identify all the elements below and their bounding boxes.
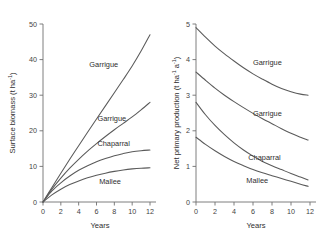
surface-biomass-plot: 01020304050024681012 GarrigueGarrigueCha… bbox=[0, 0, 166, 249]
curve-label-chaparral: Chaparral bbox=[97, 139, 130, 148]
curve-label-mallee: Mallee bbox=[99, 177, 121, 186]
tick-marks-left: 01020304050024681012 bbox=[29, 20, 154, 216]
chart-panel-surface-biomass: 01020304050024681012 GarrigueGarrigueCha… bbox=[0, 0, 166, 249]
y-tick-label: 5 bbox=[186, 20, 190, 29]
y-tick-label: 0 bbox=[33, 198, 37, 207]
y-tick-label: 20 bbox=[29, 126, 37, 135]
y-axis-title: Net primary production (t ha-1 a-1) bbox=[171, 56, 181, 169]
x-tick-label: 8 bbox=[270, 207, 274, 216]
curves-right bbox=[196, 28, 308, 187]
x-tick-label: 0 bbox=[194, 207, 198, 216]
x-tick-label: 12 bbox=[306, 207, 314, 216]
y-tick-label: 0 bbox=[186, 198, 190, 207]
y-axis-title-base: Surface biomass (t ha bbox=[8, 79, 17, 154]
x-tick-label: 6 bbox=[251, 207, 255, 216]
y-tick-label: 40 bbox=[29, 55, 37, 64]
chart-panel-net-primary-production: 012345024681012 GarrigueGarrigueChaparra… bbox=[166, 0, 333, 249]
curve-label-mallee: Mallee bbox=[246, 176, 268, 185]
y-tick-label: 2 bbox=[186, 126, 190, 135]
y-tick-label: 10 bbox=[29, 162, 37, 171]
y-tick-label: 50 bbox=[29, 20, 37, 29]
x-tick-label: 8 bbox=[112, 207, 116, 216]
y-tick-label: 4 bbox=[186, 55, 190, 64]
x-tick-label: 6 bbox=[95, 207, 99, 216]
y-tick-label: 1 bbox=[186, 162, 190, 171]
x-axis-title: Years bbox=[90, 221, 109, 230]
x-tick-label: 10 bbox=[128, 207, 136, 216]
curve-label-garrigue: Garrigue bbox=[253, 58, 282, 67]
figure-container: 01020304050024681012 GarrigueGarrigueCha… bbox=[0, 0, 333, 249]
curve-labels-right: GarrigueGarrigueChaparralMallee bbox=[246, 58, 281, 185]
curve-label-garrigue-2: Garrigue bbox=[253, 109, 282, 118]
x-tick-label: 10 bbox=[287, 207, 295, 216]
x-axis-title: Years bbox=[246, 221, 265, 230]
y-tick-label: 3 bbox=[186, 91, 190, 100]
curve-garrigue-2 bbox=[196, 72, 308, 140]
y-axis-title: Surface biomass (t ha-1) bbox=[7, 72, 17, 154]
x-tick-label: 4 bbox=[77, 207, 81, 216]
x-tick-label: 2 bbox=[213, 207, 217, 216]
tick-marks-right: 012345024681012 bbox=[186, 20, 314, 216]
y-axis-title-tail: ) bbox=[8, 72, 17, 75]
x-tick-label: 2 bbox=[59, 207, 63, 216]
y-axis-title-tail: ) bbox=[172, 56, 181, 59]
x-tick-label: 12 bbox=[146, 207, 154, 216]
x-tick-label: 0 bbox=[41, 207, 45, 216]
curve-label-chaparral: Chaparral bbox=[248, 153, 281, 162]
y-tick-label: 30 bbox=[29, 91, 37, 100]
curve-label-garrigue-2: Garrigue bbox=[97, 114, 126, 123]
curve-label-garrigue: Garrigue bbox=[89, 60, 118, 69]
y-axis-title-base: Net primary production (t ha bbox=[172, 74, 181, 169]
net-primary-production-plot: 012345024681012 GarrigueGarrigueChaparra… bbox=[166, 0, 333, 249]
x-tick-label: 4 bbox=[232, 207, 236, 216]
